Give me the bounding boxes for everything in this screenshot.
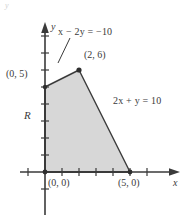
leader-line-upper-equation	[58, 38, 70, 63]
x-axis-label: x	[173, 178, 177, 188]
corner-artifact-glyph: y	[5, 1, 9, 10]
upper-line-equation-label: x − 2y = −10	[58, 27, 112, 37]
region-label: R	[24, 110, 31, 121]
vertex-dot-corner	[76, 67, 81, 72]
vertex-label-y-intercept: (0, 5)	[6, 69, 28, 79]
y-axis-label: y	[51, 22, 55, 32]
feasible-region-shading	[45, 70, 130, 172]
vertex-label-origin: (0, 0)	[48, 178, 70, 188]
vertex-dot-origin	[43, 170, 48, 175]
y-axis-arrowhead	[41, 22, 49, 33]
x-axis-arrowhead	[169, 168, 180, 176]
vertex-label-x-intercept: (5, 0)	[118, 178, 140, 188]
vertex-dot-y-intercept	[43, 85, 47, 89]
vertex-dot-x-intercept	[128, 170, 133, 175]
math-graph-figure: y	[0, 0, 189, 218]
lower-line-equation-label: 2x + y = 10	[113, 96, 161, 106]
vertex-label-corner: (2, 6)	[84, 50, 106, 60]
